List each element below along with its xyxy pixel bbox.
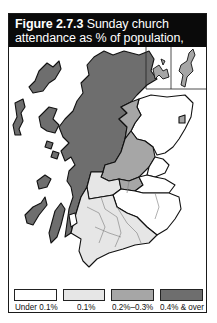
scotland-choropleth-map bbox=[9, 47, 206, 285]
island-skye bbox=[39, 107, 59, 133]
figure-number: Figure 2.7.3 bbox=[15, 17, 83, 31]
legend: Under 0.1% 0.1% 0.2%–0.3% 0.4% & over bbox=[9, 287, 206, 313]
legend-label-0.2-0.3: 0.2%–0.3% bbox=[112, 301, 153, 312]
legend-swatch-0.4-over bbox=[160, 289, 203, 301]
region-aberdeen-patch bbox=[179, 115, 185, 123]
legend-label-0.4-over: 0.4% & over bbox=[160, 301, 204, 312]
legend-label-under-0.1: Under 0.1% bbox=[15, 301, 58, 312]
kintyre bbox=[49, 203, 65, 243]
island-small1 bbox=[45, 141, 53, 149]
legend-label-0.1: 0.1% bbox=[77, 301, 95, 312]
legend-swatch-under-0.1 bbox=[14, 289, 57, 301]
legend-swatch-0.1 bbox=[63, 289, 105, 301]
island-lewis bbox=[29, 61, 61, 93]
island-uist bbox=[13, 99, 25, 135]
title-line1: Sunday church bbox=[83, 17, 168, 31]
figure-title: Figure 2.7.3 Sunday church attendance as… bbox=[9, 14, 206, 47]
island-islay-jura bbox=[25, 197, 47, 225]
legend-swatch-0.2-0.3 bbox=[111, 289, 154, 301]
island-small2 bbox=[51, 151, 59, 159]
figure-frame: Figure 2.7.3 Sunday church attendance as… bbox=[8, 13, 207, 313]
inset-shetland bbox=[179, 49, 195, 87]
inset-orkney bbox=[153, 59, 169, 79]
inset-boxes bbox=[146, 47, 206, 89]
island-mull bbox=[37, 175, 51, 189]
